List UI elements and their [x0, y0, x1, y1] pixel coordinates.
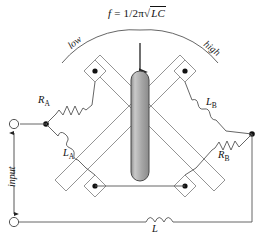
coil-bar-a: [89, 55, 225, 191]
lb-subscript: B: [212, 101, 217, 110]
formula-equals: =: [114, 7, 120, 19]
rb-subscript: B: [224, 154, 229, 163]
rotor-shaft[interactable]: [131, 43, 149, 181]
input-label: input: [7, 166, 17, 187]
coil-bar-b: [55, 55, 191, 191]
component-label-ra: RA: [38, 95, 50, 108]
inductor-l-symbol: [146, 218, 173, 223]
component-label-lb: LB: [206, 97, 217, 110]
component-label-la: LA: [63, 148, 74, 161]
terminal-square-top-right: [174, 60, 196, 82]
input-terminal-top: [9, 119, 18, 128]
terminal-square-top-left: [84, 60, 106, 82]
circuit-diagram-canvas: f = 1/2π√LC low high RA LA LB RB L input: [0, 0, 280, 242]
input-terminal-bottom: [9, 217, 18, 226]
component-label-l: L: [152, 224, 158, 235]
node-dot-top-right: [182, 68, 187, 73]
component-label-rb: RB: [218, 150, 229, 163]
la-subscript: A: [69, 152, 74, 161]
formula-lhs: f: [108, 7, 111, 19]
resonance-formula: f = 1/2π√LC: [108, 8, 166, 19]
node-dot-top-left: [92, 68, 97, 73]
circuit-schematic-svg: [0, 0, 280, 242]
ra-subscript: A: [44, 99, 49, 108]
resistor-ra-symbol: [56, 106, 86, 115]
formula-radicand: LC: [150, 6, 166, 19]
resistor-rb-symbol: [212, 141, 243, 150]
bottom-loop: [19, 218, 252, 223]
